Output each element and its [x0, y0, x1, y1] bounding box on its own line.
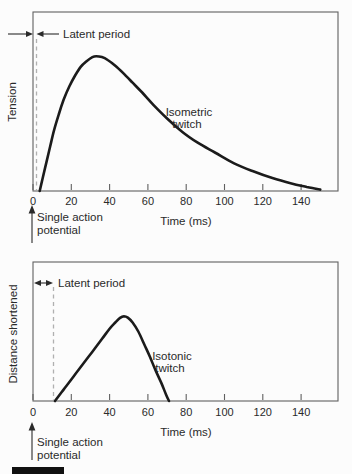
isometric-time-axis-label: Time (ms) — [160, 215, 211, 227]
muscle-twitch-figure: Latent period Tension 020406080100120140… — [0, 0, 352, 474]
isometric-latent-period-label: Latent period — [63, 28, 130, 40]
x-tick-label: 100 — [215, 195, 233, 207]
isotonic-latent-period-label: Latent period — [58, 277, 125, 289]
isometric-chart: Latent period Tension 020406080100120140… — [6, 12, 338, 243]
isotonic-stimulus-label-line2: potential — [37, 449, 80, 461]
x-tick-label: 40 — [103, 195, 115, 207]
x-tick-label: 20 — [65, 406, 77, 418]
x-tick-label: 0 — [30, 406, 36, 418]
isotonic-time-axis-label: Time (ms) — [160, 426, 211, 438]
x-tick-label: 60 — [142, 195, 154, 207]
isotonic-stimulus-arrow — [29, 422, 36, 460]
twitch-figure-svg: Latent period Tension 020406080100120140… — [0, 0, 352, 474]
x-tick-label: 100 — [215, 406, 233, 418]
isometric-stimulus-label-line1: Single action — [37, 211, 103, 223]
figure-number-bar — [12, 467, 64, 474]
isometric-stimulus-label-line2: potential — [37, 224, 80, 236]
x-tick-label: 40 — [103, 406, 115, 418]
x-tick-label: 140 — [292, 406, 310, 418]
x-tick-label: 60 — [142, 406, 154, 418]
x-tick-label: 20 — [65, 195, 77, 207]
x-tick-label: 80 — [180, 195, 192, 207]
tension-axis-label: Tension — [6, 82, 18, 122]
distance-shortened-axis-label: Distance shortened — [7, 284, 19, 383]
isometric-stimulus-arrow — [29, 205, 36, 243]
isotonic-twitch-label-line1: Isotonic — [152, 350, 192, 362]
isotonic-chart: Latent period Distance shortened 0204060… — [7, 262, 338, 461]
x-tick-label: 120 — [254, 406, 272, 418]
isometric-twitch-label-line1: Isometric — [166, 106, 213, 118]
isotonic-twitch-label-line2: twitch — [155, 362, 184, 374]
x-tick-label: 80 — [180, 406, 192, 418]
isotonic-stimulus-label-line1: Single action — [37, 436, 103, 448]
x-tick-label: 140 — [292, 195, 310, 207]
isotonic-x-axis: 020406080100120140 — [30, 394, 310, 418]
isotonic-latent-arrow — [34, 280, 53, 286]
x-tick-label: 120 — [254, 195, 272, 207]
isometric-x-axis: 020406080100120140 — [30, 184, 310, 207]
isometric-twitch-label-line2: twitch — [172, 118, 201, 130]
x-tick-label: 0 — [30, 195, 36, 207]
